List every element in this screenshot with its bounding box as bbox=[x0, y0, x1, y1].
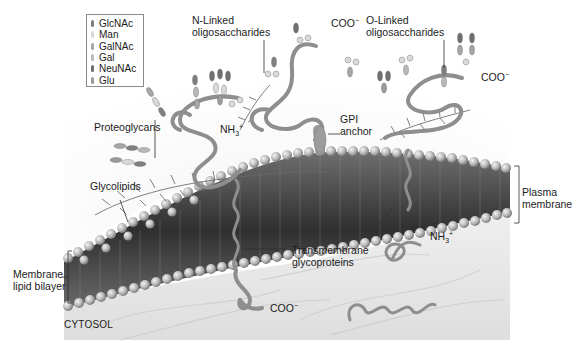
label-line: Plasma bbox=[522, 186, 572, 198]
glu-swatch-icon bbox=[91, 77, 94, 84]
label-membrane-lipid-bilayer: Membrane lipid bilayer bbox=[13, 268, 66, 292]
label-line: O-Linked bbox=[366, 14, 444, 26]
charge: − bbox=[355, 17, 359, 24]
legend-item-glu: Glu bbox=[91, 74, 143, 85]
label-line: GPI bbox=[340, 113, 372, 125]
label-line: glycoproteins bbox=[292, 256, 369, 268]
legend-label: GlcNAc bbox=[99, 18, 133, 29]
label-glycolipids: Glycolipids bbox=[90, 180, 141, 192]
label-text: Proteoglycans bbox=[94, 121, 161, 133]
label-o-linked: O-Linked oligosaccharides bbox=[366, 14, 444, 38]
legend-label: Glu bbox=[99, 75, 115, 86]
legend-item-man: Man bbox=[91, 29, 143, 40]
sugar-legend: GlcNAc Man GalNAc Gal NeuNAc Glu bbox=[86, 14, 144, 87]
label-coo-right: COO− bbox=[481, 71, 509, 83]
label-line: membrane bbox=[522, 198, 572, 210]
charge: + bbox=[449, 230, 453, 237]
legend-label: NeuNAc bbox=[99, 63, 136, 74]
label-line: oligosaccharides bbox=[192, 26, 270, 38]
label-text: COO bbox=[331, 17, 355, 29]
label-proteoglycans: Proteoglycans bbox=[94, 121, 161, 133]
charge: + bbox=[239, 123, 243, 130]
subscript: 3 bbox=[445, 237, 449, 244]
legend-item-gal: Gal bbox=[91, 52, 143, 63]
charge: − bbox=[505, 71, 509, 78]
label-line: oligosaccharides bbox=[366, 26, 444, 38]
neunac-swatch-icon bbox=[91, 65, 94, 72]
glcnac-swatch-icon bbox=[91, 20, 94, 27]
label-cytosol: CYTOSOL bbox=[64, 319, 113, 331]
subscript: 3 bbox=[235, 130, 239, 137]
legend-label: Gal bbox=[99, 52, 115, 63]
label-n-linked: N-Linked oligosaccharides bbox=[192, 14, 270, 38]
label-line: Transmembrane bbox=[292, 244, 369, 256]
gpi-anchor-shape bbox=[314, 126, 326, 154]
label-text: CYTOSOL bbox=[64, 319, 113, 330]
man-swatch-icon bbox=[91, 31, 94, 38]
label-text: NH bbox=[430, 230, 445, 242]
label-nh3-left: NH3+ bbox=[220, 123, 243, 135]
label-plasma-membrane: Plasma membrane bbox=[522, 186, 572, 210]
legend-item-neunac: NeuNAc bbox=[91, 63, 143, 74]
label-text: Glycolipids bbox=[90, 180, 141, 192]
legend-item-galnac: GalNAc bbox=[91, 41, 143, 52]
legend-item-glcnac: GlcNAc bbox=[91, 18, 143, 29]
label-line: Membrane bbox=[13, 268, 66, 280]
gal-swatch-icon bbox=[91, 54, 94, 61]
label-text: NH bbox=[220, 123, 235, 135]
legend-label: GalNAc bbox=[99, 41, 133, 52]
label-line: anchor bbox=[340, 125, 372, 137]
legend-label: Man bbox=[99, 29, 118, 40]
label-coo-bottom: COO− bbox=[270, 302, 298, 314]
label-line: N-Linked bbox=[192, 14, 270, 26]
label-transmembrane: Transmembrane glycoproteins bbox=[292, 244, 369, 268]
label-gpi-anchor: GPI anchor bbox=[340, 113, 372, 137]
label-coo-top: COO− bbox=[331, 17, 359, 29]
label-text: COO bbox=[270, 302, 294, 314]
galnac-swatch-icon bbox=[91, 43, 94, 50]
charge: − bbox=[294, 302, 298, 309]
label-line: lipid bilayer bbox=[13, 280, 66, 292]
label-text: COO bbox=[481, 71, 505, 83]
label-nh3-right: NH3+ bbox=[430, 230, 453, 242]
